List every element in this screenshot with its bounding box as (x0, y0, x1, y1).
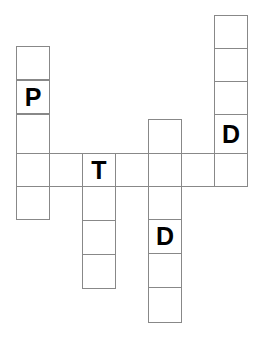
cell-t-col-r0[interactable]: T (82, 153, 116, 187)
cell-t-col-r3[interactable] (82, 254, 116, 289)
cell-across-c5[interactable] (181, 153, 215, 187)
cell-d-right-r1[interactable] (214, 48, 248, 82)
cell-p-col-r3[interactable] (16, 153, 50, 187)
cell-across-c3[interactable] (115, 153, 149, 187)
cell-d-mid-r5[interactable] (148, 287, 182, 323)
cell-d-mid-r0[interactable] (148, 119, 182, 154)
cell-d-right-r4[interactable] (214, 153, 248, 187)
cell-d-mid-r1[interactable] (148, 153, 182, 187)
cell-d-right-r0[interactable] (214, 15, 248, 49)
cell-d-mid-r3[interactable]: D (148, 219, 182, 254)
cell-d-right-r3[interactable]: D (214, 114, 248, 154)
cell-p-col-r0[interactable] (16, 46, 50, 80)
cell-d-mid-r2[interactable] (148, 186, 182, 220)
cell-letter: P (25, 85, 42, 110)
cell-t-col-r1[interactable] (82, 186, 116, 221)
cell-p-col-r4[interactable] (16, 186, 50, 220)
cell-d-mid-r4[interactable] (148, 253, 182, 288)
cell-across-c1[interactable] (49, 153, 83, 187)
cell-p-col-r1[interactable]: P (16, 80, 50, 114)
cell-d-right-r2[interactable] (214, 81, 248, 115)
cell-t-col-r2[interactable] (82, 220, 116, 255)
crossword-grid: PDDT (0, 0, 260, 343)
cell-p-col-r2[interactable] (16, 114, 50, 154)
cell-letter: T (91, 158, 106, 183)
cell-letter: D (222, 122, 240, 147)
cell-letter: D (156, 224, 174, 249)
